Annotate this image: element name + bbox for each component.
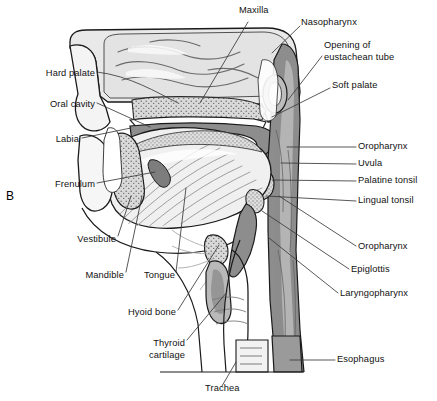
label-lingual-tonsil: Lingual tonsil bbox=[358, 195, 414, 206]
label-eustachean-opening-line2: eustachean tube bbox=[324, 52, 394, 63]
label-nasopharynx: Nasopharynx bbox=[301, 17, 357, 28]
label-maxilla: Maxilla bbox=[239, 5, 269, 16]
label-epiglottis: Epiglottis bbox=[351, 264, 390, 275]
esophagus bbox=[272, 336, 302, 372]
label-hard-palate: Hard palate bbox=[0, 68, 95, 79]
label-soft-palate: Soft palate bbox=[332, 80, 378, 91]
label-oropharynx-upper: Oropharynx bbox=[358, 141, 408, 152]
label-thyroid-cartilage-line1: Thyroid bbox=[0, 338, 185, 349]
label-frenulum: Frenulum bbox=[0, 179, 95, 190]
label-vestibule: Vestibule bbox=[0, 234, 116, 245]
label-laryngopharynx: Laryngopharynx bbox=[340, 288, 408, 299]
label-esophagus: Esophagus bbox=[337, 354, 384, 365]
label-oropharynx-lower: Oropharynx bbox=[358, 241, 408, 252]
illustration-body bbox=[70, 22, 356, 386]
oral-vestibule bbox=[103, 128, 122, 193]
label-eustachean-opening-line1: Opening of bbox=[324, 40, 371, 51]
label-thyroid-cartilage-line2: cartilage bbox=[0, 350, 185, 361]
label-hyoid-bone: Hyoid bone bbox=[0, 307, 176, 318]
label-labia: Labia bbox=[0, 134, 79, 145]
label-tongue: Tongue bbox=[144, 270, 175, 281]
anatomy-figure: B Hard palate Oral cavity Labia Frenulum… bbox=[0, 0, 437, 401]
label-palatine-tonsil: Palatine tonsil bbox=[358, 175, 417, 186]
panel-letter: B bbox=[6, 189, 14, 203]
label-mandible: Mandible bbox=[0, 270, 124, 281]
label-trachea: Trachea bbox=[205, 383, 239, 394]
label-uvula: Uvula bbox=[358, 158, 382, 169]
label-oral-cavity: Oral cavity bbox=[0, 99, 95, 110]
nasopharynx-space bbox=[258, 60, 278, 121]
